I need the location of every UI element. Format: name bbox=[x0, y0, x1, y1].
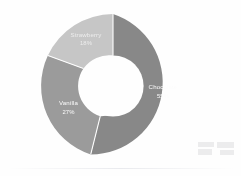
slice-label-vanilla-percent: 27% bbox=[62, 109, 75, 115]
slice-label-strawberry-name: Strawberry bbox=[71, 31, 103, 38]
bottom-divider bbox=[8, 168, 234, 169]
donut-hole bbox=[82, 55, 143, 116]
slice-label-chocolate-name: Chocolate bbox=[149, 83, 178, 90]
slice-label-strawberry-percent: 18% bbox=[80, 40, 93, 46]
slice-label-vanilla-name: Vanilla bbox=[59, 99, 78, 106]
donut-chart: Chocolate 55% Vanilla 27% Strawberry 18% bbox=[0, 0, 241, 176]
slice-label-chocolate-percent: 55% bbox=[157, 93, 170, 99]
legend-remnant-artifact bbox=[198, 142, 238, 158]
